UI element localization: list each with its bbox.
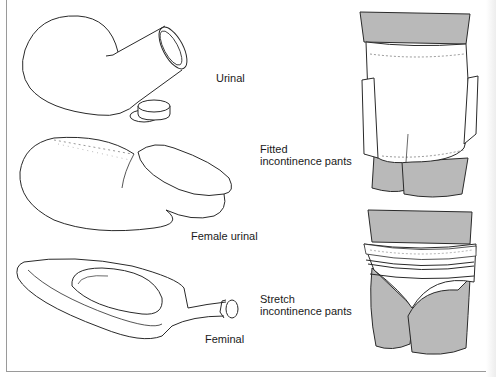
stretch-pants-illustration	[362, 208, 480, 358]
fitted-pants-label-line1: Fitted	[260, 143, 352, 155]
frame-bottom-border	[6, 371, 486, 372]
frame-left-border	[6, 0, 7, 372]
fitted-pants-label-line2: incontinence pants	[260, 155, 352, 167]
stretch-pants-label: Stretch incontinence pants	[260, 293, 352, 317]
female-urinal-illustration	[14, 132, 234, 237]
feminal-label: Feminal	[205, 333, 244, 345]
stretch-pants-label-line1: Stretch	[260, 293, 352, 305]
fitted-pants-illustration	[352, 10, 484, 202]
stretch-pants-label-line2: incontinence pants	[260, 305, 352, 317]
female-urinal-label: Female urinal	[191, 230, 258, 242]
urinal-cap-illustration	[128, 98, 178, 126]
page-edge-shadow	[486, 0, 496, 377]
urinal-label: Urinal	[216, 72, 245, 84]
fitted-pants-label: Fitted incontinence pants	[260, 143, 352, 167]
